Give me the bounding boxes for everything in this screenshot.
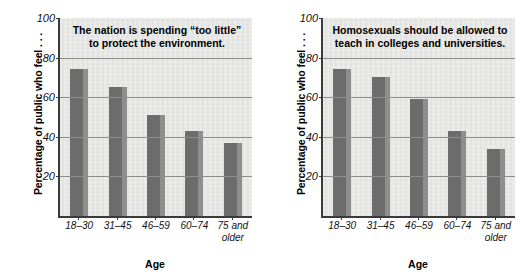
gridline-left-20 <box>60 176 252 177</box>
bar-top-face <box>237 143 242 147</box>
bar-top-face <box>385 77 390 81</box>
bar-top-face <box>500 149 505 153</box>
y-tick-mark-left-40 <box>56 137 60 138</box>
gridline-left-60 <box>60 97 252 98</box>
y-tick-label-right-40: 40 <box>306 131 318 143</box>
gridline-right-80 <box>323 58 515 59</box>
y-tick-label-left-100: 100 <box>37 12 55 24</box>
y-tick-mark-left-60 <box>56 97 60 98</box>
chart-panel-homosexuals-teaching: Percentage of public who feel . . . Homo… <box>263 0 526 279</box>
x-tick-label-line2: older <box>210 232 256 244</box>
bar-front-face <box>372 77 385 216</box>
bar-front-face <box>109 87 122 216</box>
bar <box>410 99 428 216</box>
y-tick-label-left-60: 60 <box>43 91 55 103</box>
y-tick-label-right-80: 80 <box>306 52 318 64</box>
y-tick-label-left-40: 40 <box>43 131 55 143</box>
x-axis-tick-labels-right: 18–3031–4546–5960–7475 andolder <box>321 220 515 254</box>
x-axis-title-right: Age <box>321 258 515 270</box>
bar-top-face <box>423 99 428 103</box>
y-tick-mark-left-20 <box>56 176 60 177</box>
y-tick-label-right-20: 20 <box>306 170 318 182</box>
bar-series-right <box>323 18 515 216</box>
bar-side-face <box>83 73 88 216</box>
two-panel-bar-chart-figure: Percentage of public who feel . . . The … <box>0 0 526 279</box>
bar-front-face <box>147 115 160 216</box>
bar-side-face <box>237 147 242 216</box>
chart-panel-environment: Percentage of public who feel . . . The … <box>0 0 263 279</box>
bar-side-face <box>346 73 351 216</box>
bar-front-face <box>70 69 83 216</box>
bar <box>109 87 127 216</box>
x-tick-label-line2: older <box>473 232 519 244</box>
x-tick-label: 75 andolder <box>210 220 256 244</box>
bar <box>70 69 88 216</box>
gridline-right-40 <box>323 137 515 138</box>
x-axis-title-left: Age <box>58 258 252 270</box>
y-tick-mark-right-100 <box>319 18 323 19</box>
x-tick-label-line1: 75 and <box>210 220 256 232</box>
bar-front-face <box>410 99 423 216</box>
bar <box>185 131 203 216</box>
y-tick-label-left-20: 20 <box>43 170 55 182</box>
bar <box>333 69 351 216</box>
gridline-right-20 <box>323 176 515 177</box>
bar <box>448 131 466 216</box>
plot-area-left: The nation is spending “too little” to p… <box>58 18 252 218</box>
bar-series-left <box>60 18 252 216</box>
y-tick-mark-left-100 <box>56 18 60 19</box>
bar-front-face <box>185 131 198 216</box>
bar-front-face <box>224 143 237 216</box>
bar-side-face <box>500 153 505 216</box>
bar-side-face <box>423 103 428 216</box>
bar-front-face <box>448 131 461 216</box>
bar-top-face <box>122 87 127 91</box>
y-tick-mark-right-40 <box>319 137 323 138</box>
x-axis-tick-labels-left: 18–3031–4546–5960–7475 andolder <box>58 220 252 254</box>
bar-side-face <box>122 91 127 216</box>
bar-top-face <box>83 69 88 73</box>
y-tick-mark-left-80 <box>56 58 60 59</box>
bar-top-face <box>461 131 466 135</box>
y-tick-label-right-60: 60 <box>306 91 318 103</box>
bar-top-face <box>198 131 203 135</box>
y-tick-mark-right-20 <box>319 176 323 177</box>
bar-top-face <box>160 115 165 119</box>
bar <box>372 77 390 216</box>
gridline-left-80 <box>60 58 252 59</box>
bar-top-face <box>346 69 351 73</box>
bar-front-face <box>487 149 500 216</box>
y-tick-mark-right-60 <box>319 97 323 98</box>
bar <box>224 143 242 216</box>
gridline-left-40 <box>60 137 252 138</box>
bar-front-face <box>333 69 346 216</box>
plot-area-right: Homosexuals should be allowed to teach i… <box>321 18 515 218</box>
bar-side-face <box>385 81 390 216</box>
y-tick-label-right-100: 100 <box>300 12 318 24</box>
x-tick-label-line1: 75 and <box>473 220 519 232</box>
bar-side-face <box>160 119 165 216</box>
bar <box>147 115 165 216</box>
x-tick-label: 75 andolder <box>473 220 519 244</box>
y-tick-label-left-80: 80 <box>43 52 55 64</box>
gridline-right-60 <box>323 97 515 98</box>
bar <box>487 149 505 216</box>
y-tick-mark-right-80 <box>319 58 323 59</box>
